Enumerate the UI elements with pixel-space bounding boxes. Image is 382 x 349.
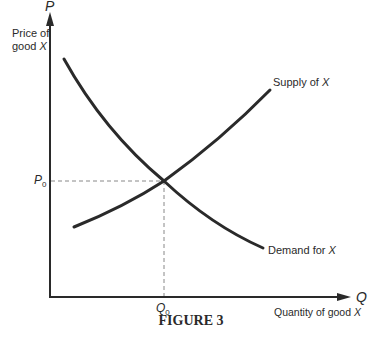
y-axis-label: Price of good X	[12, 27, 49, 52]
y-axis-arrow-icon	[46, 12, 54, 26]
supply-curve-label: Supply of X	[273, 76, 329, 89]
supply-label-var: X	[322, 76, 329, 88]
equilibrium-price-label: P0	[34, 174, 46, 189]
demand-label-var: X	[329, 244, 336, 256]
y-axis-symbol: P	[45, 0, 54, 14]
supply-label-text: Supply of	[273, 76, 322, 88]
x-axis-arrow-icon	[337, 293, 351, 301]
demand-label-text: Demand for	[268, 244, 329, 256]
y-axis-label-line2: good X	[12, 40, 49, 53]
y-axis-label-var: X	[40, 40, 47, 52]
supply-curve	[74, 90, 270, 227]
x-axis-symbol: Q	[356, 289, 367, 305]
price-symbol: P	[34, 173, 42, 187]
figure-caption: FIGURE 3	[0, 313, 382, 329]
y-axis-label-text: good	[12, 40, 40, 52]
supply-demand-diagram	[0, 0, 382, 349]
demand-curve-label: Demand for X	[268, 244, 336, 257]
price-subscript: 0	[42, 180, 46, 189]
y-axis-label-line1: Price of	[12, 27, 49, 40]
